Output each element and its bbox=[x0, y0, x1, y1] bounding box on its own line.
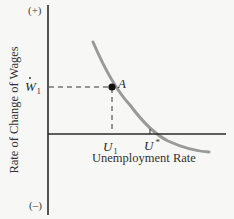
chart-svg bbox=[0, 0, 234, 219]
y-tick-w1: W1 bbox=[25, 79, 41, 96]
y-axis-label: Rate of Change of Wages bbox=[7, 46, 22, 173]
point-a-label: A bbox=[118, 76, 126, 92]
point-a-marker bbox=[108, 83, 115, 90]
phillips-curve bbox=[93, 42, 209, 152]
y-axis-positive-sign: (+) bbox=[28, 4, 42, 16]
ustar-superscript: * bbox=[155, 137, 160, 147]
w1-subscript: 1 bbox=[37, 87, 41, 96]
x-axis-label: Unemployment Rate bbox=[92, 151, 196, 166]
y-axis-negative-sign: (–) bbox=[29, 199, 42, 211]
w-dot-glyph: W bbox=[25, 79, 36, 95]
phillips-curve-figure: (+) (–) Rate of Change of Wages W1 A U1 … bbox=[0, 0, 234, 219]
